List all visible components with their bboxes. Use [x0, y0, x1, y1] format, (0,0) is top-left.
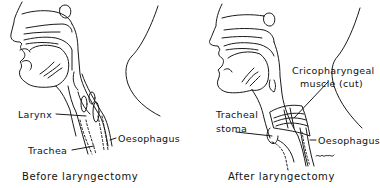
- panel-before-laryngectomy: Larynx Oesophagus Trachea Before larynge…: [0, 0, 188, 188]
- trachea-leader-line: [72, 146, 94, 150]
- label-cricopharyngeal: Cricopharyngeal: [292, 66, 374, 76]
- after-anatomy-drawing: [188, 0, 375, 188]
- face-profile: [11, 2, 56, 87]
- caption-before: Before laryngectomy: [22, 172, 138, 182]
- label-trachea: Trachea: [28, 146, 67, 156]
- panel-after-laryngectomy: Cricopharyngeal muscle (cut) Tracheal st…: [188, 0, 375, 188]
- label-larynx: Larynx: [18, 110, 52, 120]
- label-oesophagus: Oesophagus: [318, 136, 380, 146]
- before-anatomy-drawing: [0, 0, 188, 188]
- label-oesophagus: Oesophagus: [118, 134, 180, 144]
- label-tracheal: Tracheal: [216, 110, 258, 120]
- caption-after: After laryngectomy: [228, 172, 335, 182]
- label-cricopharyngeal-cut: muscle (cut): [300, 79, 363, 89]
- label-stoma: stoma: [216, 124, 247, 134]
- neck-outline: [126, 6, 160, 116]
